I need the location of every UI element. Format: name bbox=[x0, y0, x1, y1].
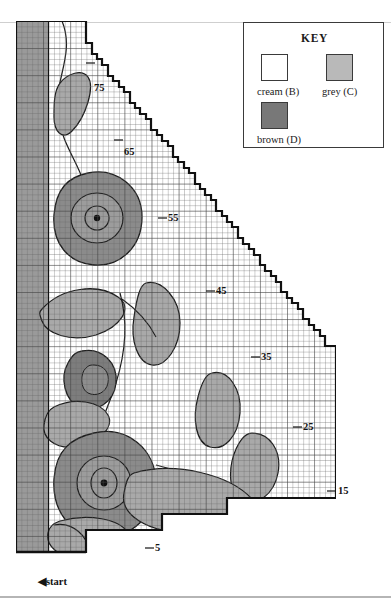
swatch-brown bbox=[261, 102, 288, 129]
swatch-cream bbox=[261, 54, 288, 81]
swatch-label-brown: brown (D) bbox=[257, 134, 301, 145]
key-title: KEY bbox=[244, 32, 385, 44]
start-arrow-icon: ◀ bbox=[38, 576, 46, 587]
swatch-grey bbox=[326, 54, 353, 81]
swatch-label-grey: grey (C) bbox=[322, 86, 357, 97]
row-label-5: 5 bbox=[155, 542, 160, 553]
row-label-25: 25 bbox=[303, 421, 314, 432]
page-rule-bottom bbox=[0, 596, 391, 598]
swatch-label-cream: cream (B) bbox=[257, 86, 299, 97]
row-label-15: 15 bbox=[338, 485, 349, 496]
row-label-55: 55 bbox=[168, 212, 179, 223]
start-label: start bbox=[46, 576, 67, 587]
chart-page: 75 65 55 45 35 25 15 5 ◀start KEY cream … bbox=[0, 0, 391, 612]
row-label-75: 75 bbox=[94, 82, 105, 93]
start-marker: ◀start bbox=[38, 575, 67, 587]
key-legend: KEY cream (B) grey (C) brown (D) bbox=[243, 22, 384, 148]
row-label-65: 65 bbox=[124, 146, 135, 157]
row-label-45: 45 bbox=[216, 285, 227, 296]
row-label-35: 35 bbox=[261, 351, 272, 362]
